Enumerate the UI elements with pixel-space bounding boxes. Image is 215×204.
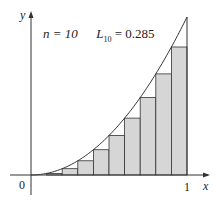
- rectangle: [62, 169, 78, 175]
- rectangle: [125, 118, 141, 175]
- chart-annotation: n = 10 L10 = 0.285: [43, 26, 155, 44]
- L-subscript: 10: [104, 35, 112, 44]
- x-axis-label: x: [203, 179, 208, 194]
- rectangle: [171, 47, 187, 175]
- y-axis-label: y: [20, 8, 25, 23]
- origin-label: 0: [19, 178, 25, 193]
- rectangle: [156, 74, 172, 175]
- rectangles: [47, 47, 187, 175]
- x-axis-arrow: [203, 173, 210, 178]
- rectangle: [78, 161, 94, 175]
- n-label: n = 10: [43, 26, 78, 41]
- rectangle: [93, 150, 109, 175]
- tick-label-1: 1: [184, 180, 190, 195]
- rectangle: [109, 136, 125, 176]
- rectangle: [140, 98, 156, 175]
- L-label: L: [96, 26, 103, 41]
- y-axis-arrow: [29, 11, 34, 18]
- L-value: = 0.285: [112, 26, 155, 41]
